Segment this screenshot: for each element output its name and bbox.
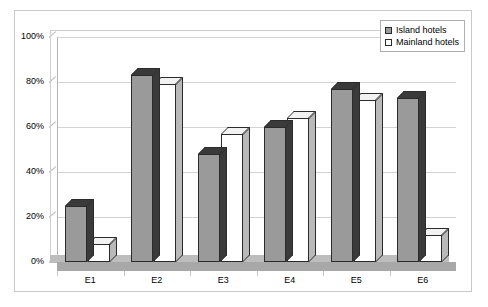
gridline-80 [57,82,456,83]
bar-front-face [331,89,353,262]
value-axis-line [57,37,58,262]
y-axis-label-80pct: 80% [8,77,44,86]
bar-front-face [397,98,419,262]
x-axis-label-E4: E4 [260,276,320,285]
chart-legend: Island hotels Mainland hotels [380,20,465,52]
x-axis-label-E6: E6 [393,276,453,285]
bar-side-face [220,147,227,262]
bar-front-face [131,75,153,262]
value-axis-back-line [50,30,51,255]
x-axis-label-E3: E3 [193,276,253,285]
bar-side-face [376,93,383,262]
bar-side-face [153,68,160,262]
legend-item-mainland: Mainland hotels [385,36,459,48]
legend-swatch-mainland-icon [385,39,392,46]
bar-front-face [65,206,87,262]
bar-side-face [286,120,293,262]
bar-side-face [243,127,250,262]
x-tick-1 [124,271,125,276]
x-tick-0 [57,271,58,276]
x-tick-4 [323,271,324,276]
x-tick-2 [190,271,191,276]
bar-E1-island [65,206,87,262]
legend-item-island: Island hotels [385,24,459,36]
gridline-20 [57,217,456,218]
bar-front-face [198,154,220,262]
bar-E4-island [264,127,286,262]
legend-swatch-island-icon [385,27,392,34]
x-tick-3 [257,271,258,276]
gridline-60 [57,127,456,128]
x-axis-label-E1: E1 [60,276,120,285]
floor-slab [57,262,456,271]
bar-E5-island [331,89,353,262]
legend-label-mainland: Mainland hotels [396,37,459,47]
y-axis-label-60pct: 60% [8,122,44,131]
legend-label-island: Island hotels [396,25,447,35]
y-axis-label-100pct: 100% [8,32,44,41]
bar-side-face [353,82,360,262]
y-axis-label-0pct: 0% [8,257,44,266]
bar-side-face [309,111,316,262]
chart-container: 0%20%40%60%80%100% E1E2E3E4E5E6 Island h… [0,0,488,307]
y-axis-label-20pct: 20% [8,212,44,221]
bar-E3-island [198,154,220,262]
x-axis-label-E5: E5 [326,276,386,285]
bar-E6-island [397,98,419,262]
gridline-40 [57,172,456,173]
bar-front-face [264,127,286,262]
bar-E2-island [131,75,153,262]
bar-side-face [176,77,183,262]
x-tick-5 [390,271,391,276]
bar-side-face [87,199,94,262]
y-axis-label-40pct: 40% [8,167,44,176]
x-axis-label-E2: E2 [127,276,187,285]
bar-side-face [419,91,426,262]
